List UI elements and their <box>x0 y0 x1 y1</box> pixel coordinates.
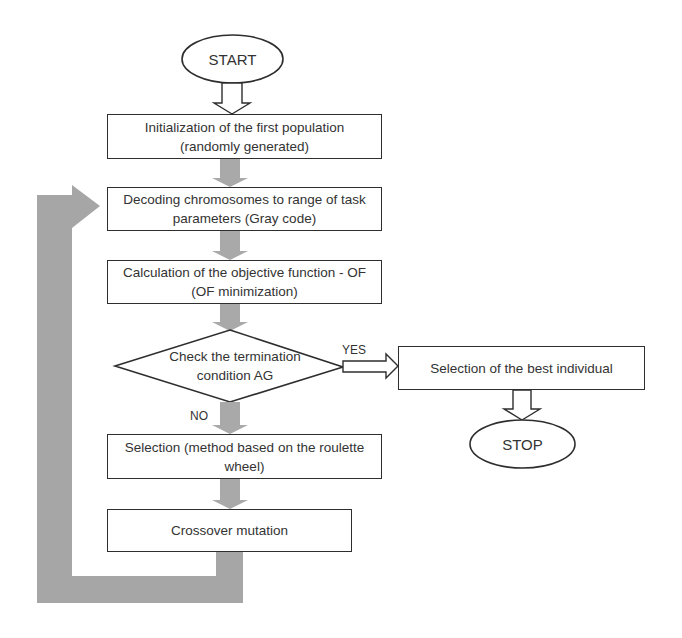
best-to-stop-arrow <box>504 390 540 420</box>
objective-function-box: Calculation of the objective function - … <box>107 260 382 304</box>
check-to-selection-arrow <box>212 402 248 434</box>
start-to-init-arrow <box>214 83 250 114</box>
check-label: Check the termination condition AG <box>150 347 320 385</box>
init-to-decode-arrow <box>212 159 248 187</box>
best-label: Selection of the best individual <box>430 359 612 378</box>
decode-line1: Decoding chromosomes to range of task <box>123 190 365 209</box>
best-individual-box: Selection of the best individual <box>398 346 645 390</box>
init-population-box: Initialization of the first population (… <box>107 114 382 159</box>
stop-label: STOP <box>470 420 575 468</box>
selection-line2: wheel) <box>225 457 265 476</box>
selection-roulette-box: Selection (method based on the roulette … <box>107 434 382 479</box>
init-line2: (randomly generated) <box>180 137 309 156</box>
init-line1: Initialization of the first population <box>145 118 345 137</box>
calc-to-check-arrow <box>212 304 248 331</box>
decode-line2: parameters (Gray code) <box>173 209 316 228</box>
crossover-label: Crossover mutation <box>171 521 288 540</box>
check-line1: Check the termination <box>150 347 320 366</box>
check-line2: condition AG <box>150 366 320 385</box>
calc-line1: Calculation of the objective function - … <box>123 263 366 282</box>
calc-line2: (OF minimization) <box>191 282 298 301</box>
selection-line1: Selection (method based on the roulette <box>125 438 364 457</box>
decode-chromosomes-box: Decoding chromosomes to range of task pa… <box>107 187 382 231</box>
no-label: NO <box>190 409 208 423</box>
crossover-mutation-box: Crossover mutation <box>107 509 352 552</box>
decode-to-calc-arrow <box>212 231 248 260</box>
yes-arrow <box>343 354 398 378</box>
start-label: START <box>182 35 283 83</box>
yes-label: YES <box>342 343 366 357</box>
selection-to-crossover-arrow <box>212 479 248 509</box>
